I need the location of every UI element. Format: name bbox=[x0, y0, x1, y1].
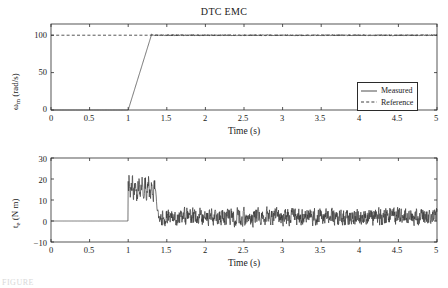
legend-item-measured: Measured bbox=[361, 85, 413, 97]
bottom-xtick-1: 1 bbox=[119, 245, 137, 255]
top-xtick-3.5: 3.5 bbox=[311, 113, 329, 123]
bottom-ytick-0: 0 bbox=[18, 217, 47, 227]
bottom-xtick-4.5: 4.5 bbox=[388, 245, 406, 255]
top-xtick-2.5: 2.5 bbox=[234, 113, 252, 123]
legend-label-reference: Reference bbox=[381, 97, 413, 109]
top-xtick-1.5: 1.5 bbox=[157, 113, 175, 123]
bottom-xtick-4: 4 bbox=[350, 245, 368, 255]
caption-fragment: FIGURE bbox=[2, 278, 34, 287]
legend-line-dashed-icon bbox=[361, 99, 377, 105]
top-xtick-5: 5 bbox=[427, 113, 445, 123]
bottom-xtick-2: 2 bbox=[196, 245, 214, 255]
bottom-xtick-3.5: 3.5 bbox=[311, 245, 329, 255]
top-y-axis-units: (rad/s) bbox=[10, 73, 20, 99]
bottom-x-axis-label: Time (s) bbox=[51, 258, 437, 268]
torque-trace bbox=[51, 175, 437, 227]
bottom-plot-canvas bbox=[0, 0, 448, 288]
top-x-axis-label: Time (s) bbox=[51, 126, 437, 136]
bottom-tick-marks bbox=[51, 158, 437, 242]
bottom-xtick-5: 5 bbox=[427, 245, 445, 255]
bottom-plot-frame bbox=[51, 158, 437, 242]
legend-line-solid-icon bbox=[361, 88, 377, 94]
top-xtick-0: 0 bbox=[42, 113, 60, 123]
bottom-xtick-0.5: 0.5 bbox=[80, 245, 98, 255]
bottom-ytick-30: 30 bbox=[18, 154, 47, 164]
top-xtick-3: 3 bbox=[273, 113, 291, 123]
bottom-xtick-2.5: 2.5 bbox=[234, 245, 252, 255]
top-xtick-0.5: 0.5 bbox=[80, 113, 98, 123]
top-xtick-4: 4 bbox=[350, 113, 368, 123]
top-ytick-50: 50 bbox=[20, 67, 47, 77]
chart-title: DTC EMC bbox=[0, 6, 448, 17]
legend: Measured Reference bbox=[357, 82, 418, 111]
bottom-ytick-10: 10 bbox=[18, 196, 47, 206]
bottom-xtick-3: 3 bbox=[273, 245, 291, 255]
bottom-xtick-0: 0 bbox=[42, 245, 60, 255]
legend-item-reference: Reference bbox=[361, 97, 413, 109]
bottom-xtick-1.5: 1.5 bbox=[157, 245, 175, 255]
legend-label-measured: Measured bbox=[381, 85, 413, 97]
top-xtick-1: 1 bbox=[119, 113, 137, 123]
figure-container: DTC EMC ωm (rad/s) 0 50 100 0 0.5 1 1.5 … bbox=[0, 0, 448, 288]
top-y-axis-symbol: ω bbox=[10, 104, 20, 110]
top-xtick-4.5: 4.5 bbox=[388, 113, 406, 123]
top-ytick-100: 100 bbox=[20, 30, 47, 40]
top-xtick-2: 2 bbox=[196, 113, 214, 123]
bottom-ytick-20: 20 bbox=[18, 175, 47, 185]
top-plot-canvas bbox=[0, 0, 448, 288]
